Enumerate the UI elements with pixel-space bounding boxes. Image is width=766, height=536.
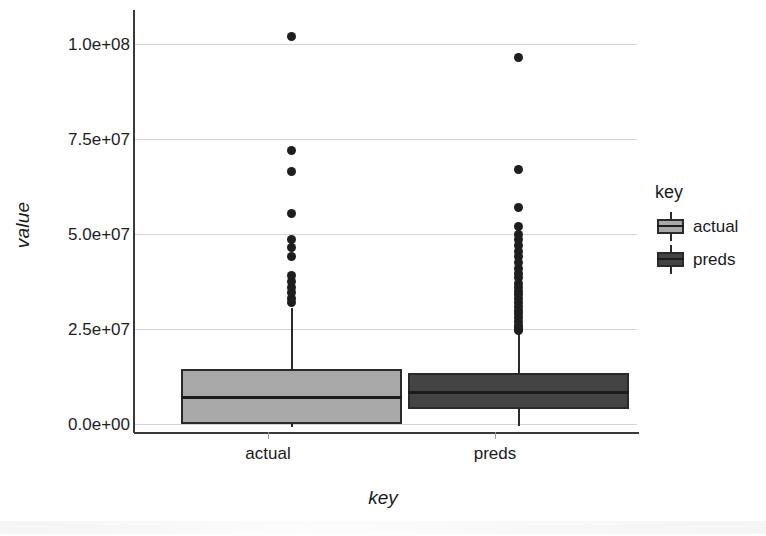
outlier-point [287, 146, 296, 155]
legend-item-preds[interactable]: preds [655, 244, 765, 275]
boxplot-figure: value 1.0e+08 7.5e+07 5.0e+07 2.5e+07 0.… [0, 0, 766, 536]
legend-swatch-preds [655, 244, 686, 275]
x-tick-mark [495, 432, 496, 439]
y-axis-title: value [12, 180, 34, 270]
median-line [181, 396, 402, 399]
legend-label-preds: preds [693, 250, 736, 270]
whisker-upper [291, 308, 293, 369]
y-tick-label: 7.5e+07 [38, 131, 130, 148]
outlier-point [514, 53, 523, 62]
outlier-point [287, 209, 296, 218]
outlier-point [287, 32, 296, 41]
outlier-point [514, 165, 523, 174]
scan-artifact [0, 521, 766, 534]
outlier-point [514, 326, 523, 335]
legend-label-actual: actual [693, 217, 738, 237]
boxplot-actual[interactable] [181, 12, 402, 431]
legend-median-icon [657, 225, 684, 227]
outlier-point [514, 203, 523, 212]
outlier-point [287, 243, 296, 252]
legend-median-icon [657, 258, 684, 260]
y-tick-label: 5.0e+07 [38, 226, 130, 243]
x-tick-mark [268, 432, 269, 439]
plot-panel [135, 12, 637, 431]
whisker-lower [291, 424, 293, 427]
legend-item-actual[interactable]: actual [655, 211, 765, 242]
legend-title: key [655, 182, 765, 203]
x-axis-line [134, 432, 639, 434]
outlier-point [287, 298, 296, 307]
legend: key actual preds [655, 182, 765, 277]
outlier-point [287, 167, 296, 176]
whisker-lower [518, 409, 520, 426]
legend-swatch-actual [655, 211, 686, 242]
x-axis-title: key [0, 487, 766, 509]
median-line [408, 391, 629, 394]
x-tick-label-preds: preds [415, 444, 575, 464]
y-tick-label: 2.5e+07 [38, 321, 130, 338]
y-tick-label: 0.0e+00 [38, 416, 130, 433]
x-tick-label-actual: actual [188, 444, 348, 464]
boxplot-preds[interactable] [408, 12, 629, 431]
y-axis-tick-labels: 1.0e+08 7.5e+07 5.0e+07 2.5e+07 0.0e+00 [34, 0, 130, 470]
outlier-point [287, 252, 296, 261]
y-tick-label: 1.0e+08 [38, 36, 130, 53]
